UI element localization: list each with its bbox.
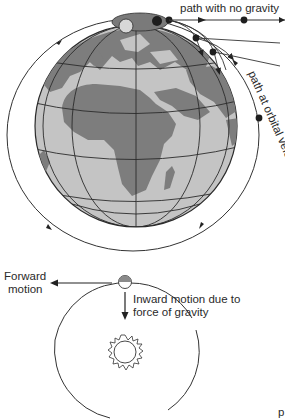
label-forward-line2: motion	[8, 283, 43, 295]
falling-ball-icon	[210, 49, 217, 56]
label-corner: p	[278, 406, 284, 418]
label-forward-line1: Forward	[4, 270, 46, 282]
planet-icon	[119, 276, 132, 289]
orbit-arrow-icon	[46, 224, 52, 230]
forward-arrow-icon	[50, 280, 58, 287]
orbit-diagram: path with no gravity path at orbital vel…	[0, 0, 285, 419]
no-gravity-path	[166, 17, 285, 24]
sun-icon	[108, 335, 143, 370]
orbit-arrow-icon	[199, 222, 204, 229]
inward-arrow-icon	[122, 312, 129, 320]
label-no-gravity: path with no gravity	[180, 2, 279, 14]
label-orbital-velocity: path at orbital velocity	[246, 69, 285, 176]
falling-ball-icon	[193, 35, 200, 42]
earth-globe	[30, 25, 242, 227]
orbital-ball-icon	[256, 115, 263, 122]
label-inward-line1: Inward motion due to	[133, 293, 240, 305]
label-inward-line2: force of gravity	[133, 306, 209, 318]
